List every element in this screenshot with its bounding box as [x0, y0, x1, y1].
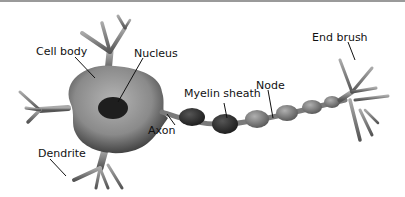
label-end-brush: End brush: [312, 31, 368, 44]
dendrite-left: [20, 92, 68, 122]
neuron-diagram: Cell body Nucleus Myelin sheath Node End…: [0, 0, 405, 197]
dendrite-top: [82, 16, 130, 72]
nucleus-shape: [98, 97, 128, 119]
label-nucleus: Nucleus: [134, 47, 178, 60]
label-node: Node: [256, 79, 285, 92]
label-axon: Axon: [148, 124, 175, 137]
label-myelin-sheath: Myelin sheath: [184, 87, 261, 100]
label-dendrite: Dendrite: [38, 147, 86, 160]
label-cell-body: Cell body: [36, 45, 87, 58]
